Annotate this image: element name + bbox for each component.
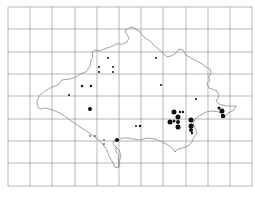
map-canvas xyxy=(0,0,255,197)
record-dot xyxy=(191,132,193,134)
record-dot xyxy=(107,57,109,59)
record-dot xyxy=(90,85,92,87)
record-dot xyxy=(220,109,225,114)
record-dot xyxy=(218,107,221,110)
record-dot xyxy=(135,125,137,127)
record-dot xyxy=(221,114,225,118)
record-dot xyxy=(189,128,193,132)
record-dot xyxy=(168,120,173,125)
record-dot xyxy=(112,66,114,68)
record-dot xyxy=(94,135,96,137)
record-dot xyxy=(155,57,157,59)
record-dot xyxy=(189,118,194,123)
record-dot xyxy=(176,125,181,130)
record-dot xyxy=(81,85,83,87)
record-dot xyxy=(68,94,70,96)
record-dot xyxy=(179,111,181,113)
record-dot xyxy=(176,120,180,124)
record-dot xyxy=(112,71,114,73)
record-dot xyxy=(103,139,105,141)
record-dot xyxy=(160,84,162,86)
record-dot xyxy=(115,138,119,142)
record-dot xyxy=(103,143,105,145)
record-dot xyxy=(195,98,197,100)
record-dot xyxy=(88,107,92,111)
record-dot xyxy=(98,71,100,73)
record-dot xyxy=(189,124,194,129)
grid-lines xyxy=(8,7,252,186)
record-dot xyxy=(182,111,184,113)
county-outline xyxy=(37,27,236,168)
record-dot xyxy=(139,125,141,127)
record-dot xyxy=(173,120,176,123)
record-dot xyxy=(89,135,91,137)
distribution-map xyxy=(0,0,255,197)
record-dot xyxy=(98,66,100,68)
record-dot xyxy=(176,115,181,120)
record-dot xyxy=(172,110,177,115)
record-dots xyxy=(68,57,225,145)
